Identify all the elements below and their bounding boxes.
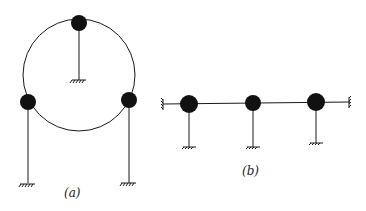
mass-top (71, 15, 87, 31)
diagram-canvas (0, 0, 366, 211)
wall-left (161, 98, 163, 110)
ground-left (19, 184, 35, 187)
ground-top (70, 80, 86, 83)
ground-b3 (309, 143, 323, 145)
mass-right (121, 92, 137, 108)
panel-label-b: (b) (242, 164, 259, 178)
mass-left (20, 94, 36, 110)
mass-b1 (180, 95, 198, 113)
panel-label-a: (a) (64, 186, 81, 200)
ground-b1 (182, 147, 196, 149)
ground-b2 (246, 147, 260, 149)
mass-b3 (307, 93, 325, 111)
ground-right (120, 183, 136, 186)
mass-b2 (245, 95, 261, 111)
